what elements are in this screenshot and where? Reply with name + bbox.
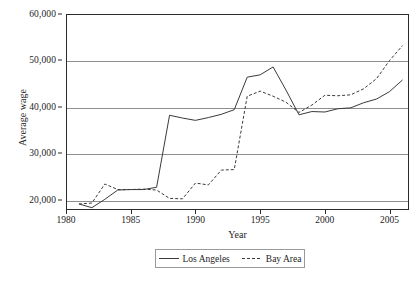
gridline bbox=[67, 201, 408, 202]
y-tick-label: 40,000 bbox=[29, 102, 56, 112]
x-tick-label: 2000 bbox=[315, 215, 334, 225]
legend-entry-bay-area: Bay Area bbox=[242, 254, 302, 264]
x-tick-label: 1995 bbox=[251, 215, 270, 225]
x-tick-mark bbox=[325, 210, 326, 214]
x-tick-mark bbox=[131, 210, 132, 214]
x-tick-label: 1985 bbox=[121, 215, 140, 225]
legend-swatch-dashed-icon bbox=[242, 255, 262, 262]
legend-label: Bay Area bbox=[266, 254, 302, 264]
y-axis-title: Average wage bbox=[17, 63, 28, 173]
y-tick-mark bbox=[58, 60, 62, 61]
y-tick-mark bbox=[58, 153, 62, 154]
y-tick-label: 30,000 bbox=[29, 148, 56, 158]
y-tick-mark bbox=[58, 199, 62, 200]
y-tick-mark bbox=[58, 14, 62, 15]
gridline bbox=[67, 154, 408, 155]
y-tick-label: 20,000 bbox=[29, 195, 56, 205]
chart-figure: 20,00030,00040,00050,00060,000 Average w… bbox=[0, 0, 417, 283]
y-tick-label: 50,000 bbox=[29, 55, 56, 65]
y-tick-label: 60,000 bbox=[29, 9, 56, 19]
chart-legend: Los AngelesBay Area bbox=[155, 249, 305, 268]
plot-area bbox=[66, 14, 409, 210]
x-axis-title: Year bbox=[66, 229, 409, 240]
gridline bbox=[67, 61, 408, 62]
x-tick-mark bbox=[260, 210, 261, 214]
x-tick-label: 1980 bbox=[57, 215, 76, 225]
x-tick-label: 2005 bbox=[380, 215, 399, 225]
gridline bbox=[67, 108, 408, 109]
legend-swatch-solid-icon bbox=[159, 255, 179, 262]
x-tick-label: 1990 bbox=[186, 215, 205, 225]
x-tick-mark bbox=[195, 210, 196, 214]
y-tick-mark bbox=[58, 106, 62, 107]
y-axis: 20,00030,00040,00050,00060,000 bbox=[0, 0, 66, 283]
x-tick-mark bbox=[66, 210, 67, 214]
x-tick-mark bbox=[390, 210, 391, 214]
legend-entry-los-angeles: Los Angeles bbox=[159, 254, 230, 264]
legend-label: Los Angeles bbox=[183, 254, 230, 264]
